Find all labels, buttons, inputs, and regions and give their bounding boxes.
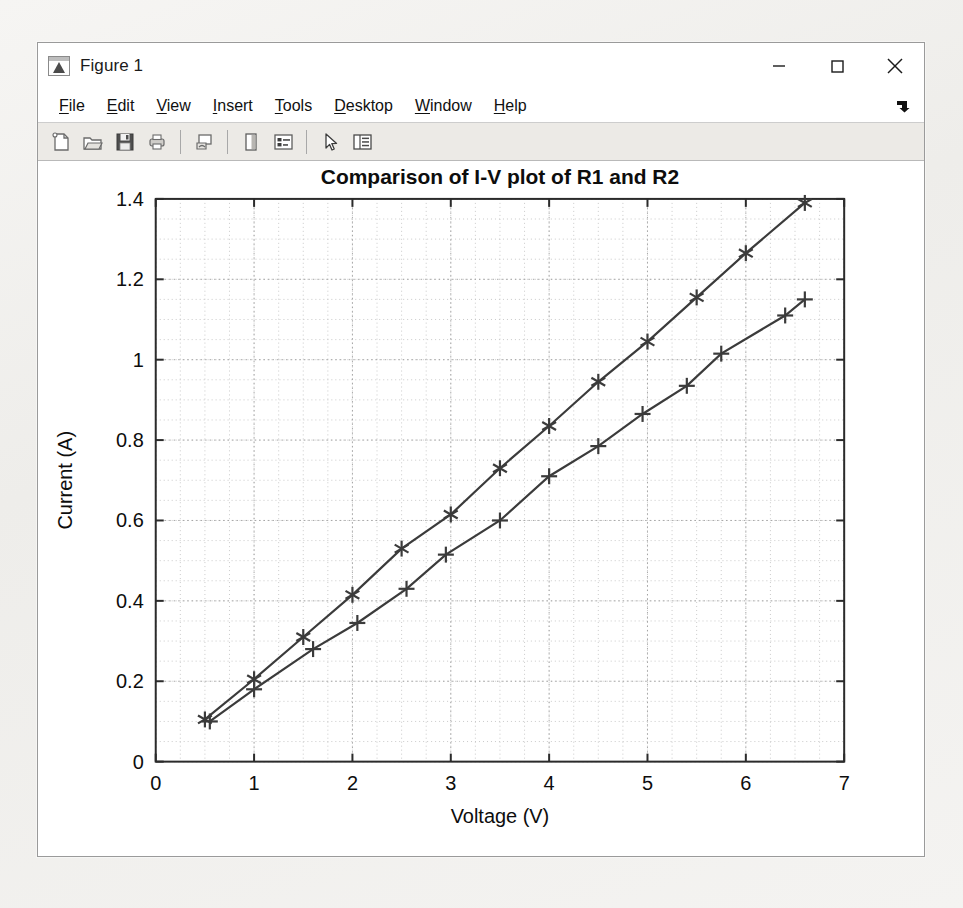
chart-title: Comparison of I-V plot of R1 and R2 bbox=[321, 165, 679, 188]
new-figure-button[interactable] bbox=[46, 127, 76, 157]
svg-text:2: 2 bbox=[347, 772, 358, 794]
menu-item-edit[interactable]: Edit bbox=[96, 94, 146, 118]
menu-label-help: elp bbox=[505, 97, 526, 114]
print-figure-button[interactable] bbox=[142, 127, 172, 157]
matlab-figure-icon bbox=[48, 56, 70, 76]
svg-text:7: 7 bbox=[839, 772, 850, 794]
menu-label-view: iew bbox=[167, 97, 191, 114]
maximize-button[interactable] bbox=[808, 44, 866, 88]
svg-text:0: 0 bbox=[150, 772, 161, 794]
svg-text:5: 5 bbox=[642, 772, 653, 794]
toolbar bbox=[38, 123, 924, 161]
colorbar-icon bbox=[240, 131, 262, 153]
x-axis-label: Voltage (V) bbox=[451, 805, 550, 827]
insert-legend-button[interactable] bbox=[268, 127, 298, 157]
menu-item-insert[interactable]: Insert bbox=[202, 94, 264, 118]
window-title: Figure 1 bbox=[80, 56, 143, 76]
menu-mnemonic-help: H bbox=[494, 97, 506, 114]
marker-plus bbox=[349, 615, 365, 631]
minimize-button[interactable] bbox=[750, 44, 808, 88]
menu-label-edit: dit bbox=[117, 97, 134, 114]
svg-text:0.6: 0.6 bbox=[116, 509, 144, 531]
data-series-layer bbox=[198, 195, 813, 729]
y-axis-label: Current (A) bbox=[54, 431, 76, 530]
link-plot-icon bbox=[193, 131, 215, 153]
figure-window: Figure 1 File Edit View Insert Tools Des… bbox=[37, 42, 925, 857]
menu-item-help[interactable]: Help bbox=[483, 94, 538, 118]
edit-plot-button[interactable] bbox=[315, 127, 345, 157]
maximize-icon bbox=[827, 56, 847, 76]
save-figure-button[interactable] bbox=[110, 127, 140, 157]
menu-mnemonic-edit: E bbox=[107, 97, 118, 114]
plot-browser-icon bbox=[351, 131, 373, 153]
svg-text:0.2: 0.2 bbox=[116, 670, 144, 692]
marker-plus bbox=[635, 406, 651, 422]
figure-plot-canvas[interactable]: 0123456700.20.40.60.811.21.4 Comparison … bbox=[38, 161, 924, 856]
marker-plus bbox=[305, 641, 321, 657]
corner-arrow-icon bbox=[896, 99, 910, 113]
menu-item-window[interactable]: Window bbox=[404, 94, 483, 118]
close-icon bbox=[884, 55, 906, 77]
menu-mnemonic-window: W bbox=[415, 97, 430, 114]
svg-text:0: 0 bbox=[133, 751, 144, 773]
toolbar-separator-2 bbox=[227, 130, 228, 154]
print-icon bbox=[146, 131, 168, 153]
new-figure-icon bbox=[50, 131, 72, 153]
menu-item-file[interactable]: File bbox=[48, 94, 96, 118]
svg-text:0.8: 0.8 bbox=[116, 429, 144, 451]
menu-label-tools: ools bbox=[283, 97, 312, 114]
open-file-button[interactable] bbox=[78, 127, 108, 157]
menu-label-desktop: esktop bbox=[346, 97, 393, 114]
svg-text:1: 1 bbox=[133, 349, 144, 371]
open-folder-icon bbox=[82, 131, 104, 153]
plot-browser-button[interactable] bbox=[347, 127, 377, 157]
minimize-icon bbox=[769, 56, 789, 76]
menu-mnemonic-file: F bbox=[59, 97, 69, 114]
svg-text:3: 3 bbox=[445, 772, 456, 794]
svg-text:0.4: 0.4 bbox=[116, 590, 144, 612]
menu-bar: File Edit View Insert Tools Desktop Wind… bbox=[38, 89, 924, 123]
iv-plot: 0123456700.20.40.60.811.21.4 Comparison … bbox=[38, 161, 924, 856]
marker-asterisk bbox=[798, 195, 812, 211]
insert-colorbar-button[interactable] bbox=[236, 127, 266, 157]
svg-text:6: 6 bbox=[740, 772, 751, 794]
svg-text:4: 4 bbox=[544, 772, 555, 794]
menu-item-view[interactable]: View bbox=[145, 94, 201, 118]
series-R1 bbox=[198, 195, 812, 727]
link-plot-button[interactable] bbox=[189, 127, 219, 157]
menu-item-desktop[interactable]: Desktop bbox=[323, 94, 404, 118]
pointer-icon bbox=[319, 131, 341, 153]
menu-label-file: ile bbox=[69, 97, 85, 114]
menu-label-insert: nsert bbox=[217, 97, 253, 114]
svg-text:1.2: 1.2 bbox=[116, 268, 144, 290]
menu-item-tools[interactable]: Tools bbox=[264, 94, 323, 118]
toolbar-separator-3 bbox=[306, 130, 307, 154]
menu-mnemonic-tools: T bbox=[275, 97, 283, 114]
menu-mnemonic-view: V bbox=[156, 97, 166, 114]
close-button[interactable] bbox=[866, 44, 924, 88]
svg-text:1.4: 1.4 bbox=[116, 188, 144, 210]
toolbar-separator-1 bbox=[180, 130, 181, 154]
menu-label-window: indow bbox=[430, 97, 472, 114]
svg-text:1: 1 bbox=[249, 772, 260, 794]
menu-mnemonic-desktop: D bbox=[334, 97, 346, 114]
title-bar: Figure 1 bbox=[38, 43, 924, 89]
legend-icon bbox=[272, 131, 294, 153]
save-icon bbox=[114, 131, 136, 153]
menu-overflow-button[interactable] bbox=[896, 99, 924, 113]
